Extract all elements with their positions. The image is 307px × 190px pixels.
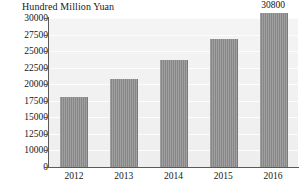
- x-tick-label: 2013: [114, 171, 133, 181]
- x-tick-label: 2016: [264, 171, 283, 181]
- y-tick-mark: [44, 51, 49, 52]
- x-tick-label: 2014: [164, 171, 183, 181]
- bar-chart: Hundred Million Yuan 3000027500250002250…: [0, 0, 307, 190]
- x-tick-label: 2012: [64, 171, 83, 181]
- bar: [210, 39, 238, 167]
- bar-value-label: 30800: [261, 0, 285, 10]
- bar: [260, 13, 288, 167]
- y-tick-mark: [44, 68, 49, 69]
- y-tick-mark: [44, 167, 49, 168]
- y-tick-mark: [44, 35, 49, 36]
- x-tick-label: 2015: [214, 171, 233, 181]
- y-tick-mark: [44, 150, 49, 151]
- chart-axis-title: Hundred Million Yuan: [22, 1, 114, 12]
- x-axis-line: [48, 167, 299, 168]
- bar: [110, 79, 138, 167]
- bar: [160, 60, 188, 167]
- y-tick-mark: [44, 18, 49, 19]
- y-tick-mark: [44, 134, 49, 135]
- y-tick-mark: [44, 117, 49, 118]
- bar: [60, 97, 88, 167]
- y-tick-mark: [44, 84, 49, 85]
- y-tick-mark: [44, 101, 49, 102]
